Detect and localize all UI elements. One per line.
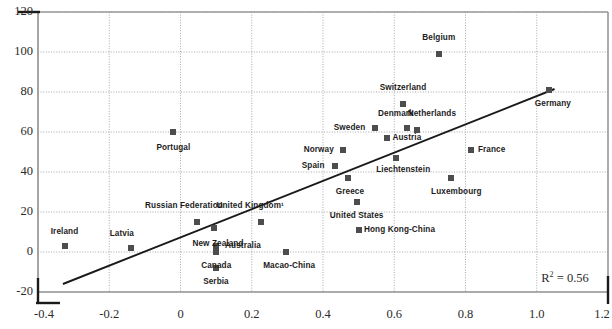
data-marker [356,227,362,233]
data-marker [354,199,360,205]
point-label: United States [330,212,384,220]
point-label: Germany [535,100,571,108]
y-tick-label: 40 [0,165,33,178]
point-label: United Kingdom¹ [216,202,283,210]
point-label: Canada [201,262,231,270]
point-label: Switzerland [380,84,427,92]
data-marker [128,245,134,251]
y-tick-label: 80 [0,85,33,98]
point-label: Russian Federation [145,202,223,210]
x-tick-label: 0 [159,308,203,321]
data-marker [400,101,406,107]
point-label: Spain [302,162,325,170]
point-label: Portugal [156,144,190,152]
data-marker [468,147,474,153]
point-label: Hong Kong-China [364,226,435,234]
r2-annotation: R2 = 0.56 [541,270,589,286]
y-tick-label: 0 [0,245,33,258]
point-label: Macao-China [263,262,315,270]
data-marker [448,175,454,181]
data-marker [170,129,176,135]
point-label: Sweden [334,124,366,132]
point-label: Greece [336,188,364,196]
x-tick-label: -0.4 [22,308,66,321]
x-tick-label: 1.0 [515,308,559,321]
x-tick-label: 0.6 [372,308,416,321]
x-tick-label: 0.8 [444,308,488,321]
point-label: Liechtenstein [376,166,430,174]
point-label: Norway [304,146,334,154]
point-label: Luxembourg [431,188,482,196]
data-marker [546,87,552,93]
x-tick-label: 0.2 [230,308,274,321]
point-label: Belgium [422,34,455,42]
point-label: Latvia [110,230,134,238]
data-marker [258,219,264,225]
data-marker [384,135,390,141]
y-tick-label: 100 [0,45,33,58]
data-marker [211,225,217,231]
data-marker [62,243,68,249]
data-marker [332,163,338,169]
x-tick-label: 0.4 [301,308,345,321]
data-marker [283,249,289,255]
data-marker [404,125,410,131]
point-label: Australia [225,242,261,250]
point-label: Austria [392,134,421,142]
data-marker [194,219,200,225]
data-marker [340,147,346,153]
point-label: Netherlands [408,110,456,118]
y-tick-label: -20 [0,285,33,298]
x-tick-label: 1.2 [580,308,612,321]
scatter-chart: -20020406080100120 -0.4-0.200.20.40.60.8… [0,0,612,329]
data-marker [393,155,399,161]
point-label: Serbia [203,278,229,286]
y-tick-label: 20 [0,205,33,218]
x-tick-label: -0.2 [87,308,131,321]
data-marker [345,175,351,181]
data-marker [372,125,378,131]
y-tick-label: 60 [0,125,33,138]
data-marker [213,249,219,255]
data-marker [436,51,442,57]
y-tick-label: 120 [0,5,33,18]
point-label: Ireland [51,228,79,236]
point-label: France [478,146,505,154]
